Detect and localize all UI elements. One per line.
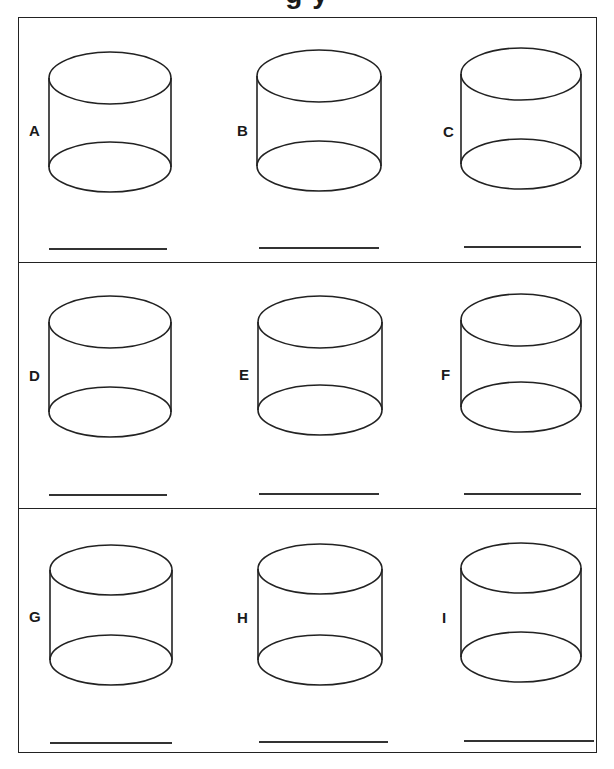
- cylinder-cell-i: I: [431, 509, 614, 752]
- cylinder-icon: [227, 18, 417, 218]
- worksheet-row-3: G H: [19, 508, 596, 752]
- cylinder-icon: [19, 509, 209, 709]
- cylinder-icon: [227, 509, 417, 709]
- worksheet-frame: A B: [18, 17, 597, 753]
- worksheet-row-1: A B: [19, 18, 596, 262]
- cylinder-icon: [227, 263, 417, 463]
- answer-line[interactable]: [50, 742, 172, 744]
- worksheet-row-2: D E: [19, 262, 596, 508]
- answer-line[interactable]: [259, 493, 379, 495]
- cylinder-icon: [431, 509, 614, 709]
- cylinder-icon: [19, 263, 209, 463]
- cylinder-cell-c: C: [431, 18, 614, 262]
- cylinder-cell-e: E: [227, 263, 417, 508]
- cylinder-cell-h: H: [227, 509, 417, 752]
- answer-line[interactable]: [464, 740, 594, 742]
- cylinder-cell-b: B: [227, 18, 417, 262]
- cylinder-icon: [431, 18, 614, 218]
- cylinder-icon: [431, 263, 614, 463]
- worksheet-title-cropped: g y: [0, 0, 614, 10]
- cylinder-cell-d: D: [19, 263, 209, 508]
- answer-line[interactable]: [259, 247, 379, 249]
- answer-line[interactable]: [49, 494, 167, 496]
- answer-line[interactable]: [49, 248, 167, 250]
- cylinder-cell-a: A: [19, 18, 209, 262]
- cylinder-cell-f: F: [431, 263, 614, 508]
- cylinder-icon: [19, 18, 209, 218]
- answer-line[interactable]: [464, 493, 581, 495]
- answer-line[interactable]: [259, 741, 388, 743]
- cylinder-cell-g: G: [19, 509, 209, 752]
- answer-line[interactable]: [464, 246, 581, 248]
